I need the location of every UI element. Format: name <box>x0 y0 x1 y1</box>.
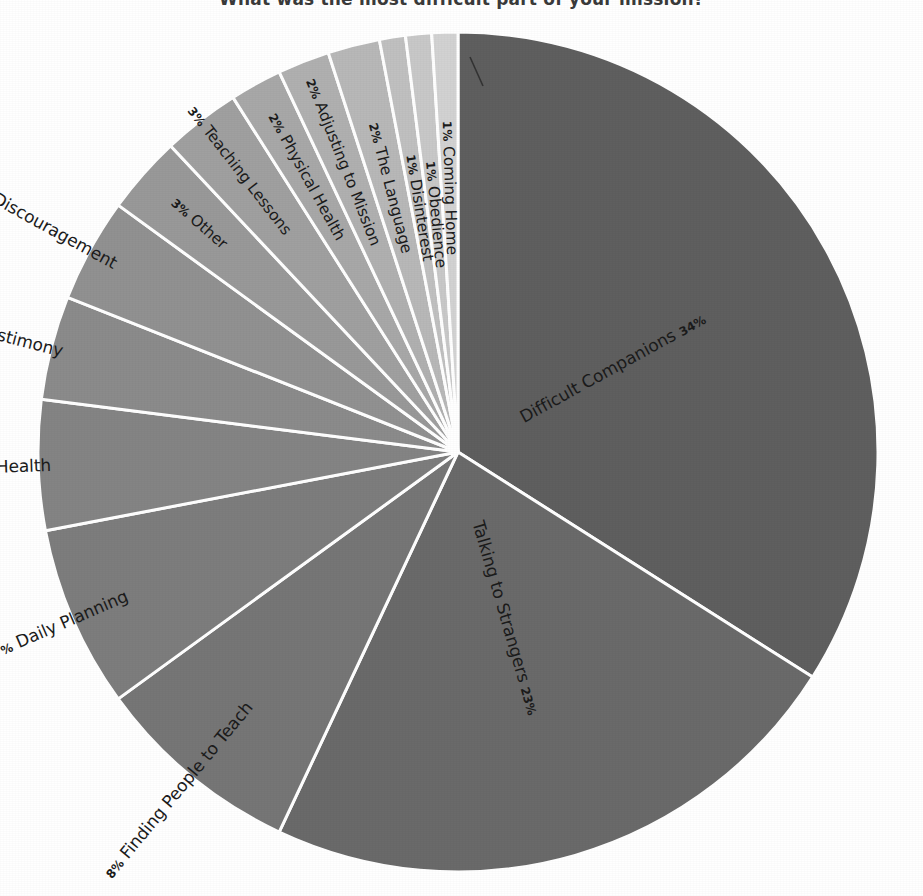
pie-svg <box>0 0 923 896</box>
pie-chart: What was the most difficult part of your… <box>0 0 923 896</box>
